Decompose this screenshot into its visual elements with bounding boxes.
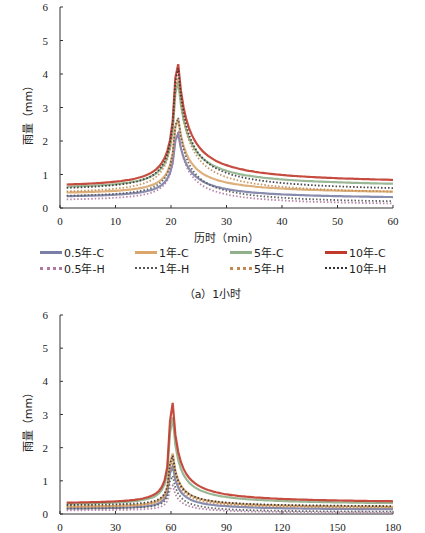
svg-text:0: 0 — [57, 215, 63, 227]
svg-text:30: 30 — [110, 521, 122, 533]
svg-text:4: 4 — [43, 68, 49, 80]
svg-text:50: 50 — [332, 215, 344, 227]
legend-item: 0.5年-H — [40, 260, 135, 276]
svg-text:60: 60 — [388, 215, 400, 227]
legend-row-solid: 0.5年-C 1年-C 5年-C 10年-C — [40, 244, 420, 260]
svg-text:40: 40 — [277, 215, 289, 227]
svg-text:60: 60 — [166, 521, 178, 533]
legend-item: 10年-C — [325, 244, 420, 260]
svg-text:雨量（mm）: 雨量（mm） — [22, 80, 35, 145]
svg-text:180: 180 — [385, 521, 402, 533]
svg-text:6: 6 — [43, 309, 49, 321]
svg-text:4: 4 — [43, 375, 49, 387]
svg-text:5: 5 — [43, 342, 49, 354]
svg-text:30: 30 — [221, 215, 233, 227]
svg-text:20: 20 — [166, 215, 178, 227]
svg-text:6: 6 — [43, 1, 49, 13]
legend-item: 5年-H — [230, 260, 325, 276]
svg-text:5: 5 — [43, 35, 49, 47]
svg-text:2: 2 — [43, 135, 49, 147]
svg-text:150: 150 — [329, 521, 346, 533]
legend-item: 1年-C — [135, 244, 230, 260]
svg-text:3: 3 — [43, 102, 49, 114]
legend: 0.5年-C 1年-C 5年-C 10年-C 0.5年-H 1年-H 5年-H … — [40, 244, 420, 276]
legend-item: 5年-C — [230, 244, 325, 260]
svg-text:1: 1 — [43, 169, 49, 181]
svg-text:10: 10 — [110, 215, 122, 227]
legend-item: 0.5年-C — [40, 244, 135, 260]
svg-text:0: 0 — [43, 508, 49, 520]
legend-item: 10年-H — [325, 260, 420, 276]
caption-a: （a）1小时 — [0, 285, 425, 301]
legend-row-dotted: 0.5年-H 1年-H 5年-H 10年-H — [40, 260, 420, 276]
svg-text:1: 1 — [43, 475, 49, 487]
svg-text:0: 0 — [57, 521, 63, 533]
svg-text:2: 2 — [43, 442, 49, 454]
svg-text:3: 3 — [43, 409, 49, 421]
svg-text:120: 120 — [274, 521, 291, 533]
svg-text:90: 90 — [221, 521, 233, 533]
svg-text:0: 0 — [43, 202, 49, 214]
svg-text:雨量（mm）: 雨量（mm） — [22, 387, 35, 452]
legend-item: 1年-H — [135, 260, 230, 276]
